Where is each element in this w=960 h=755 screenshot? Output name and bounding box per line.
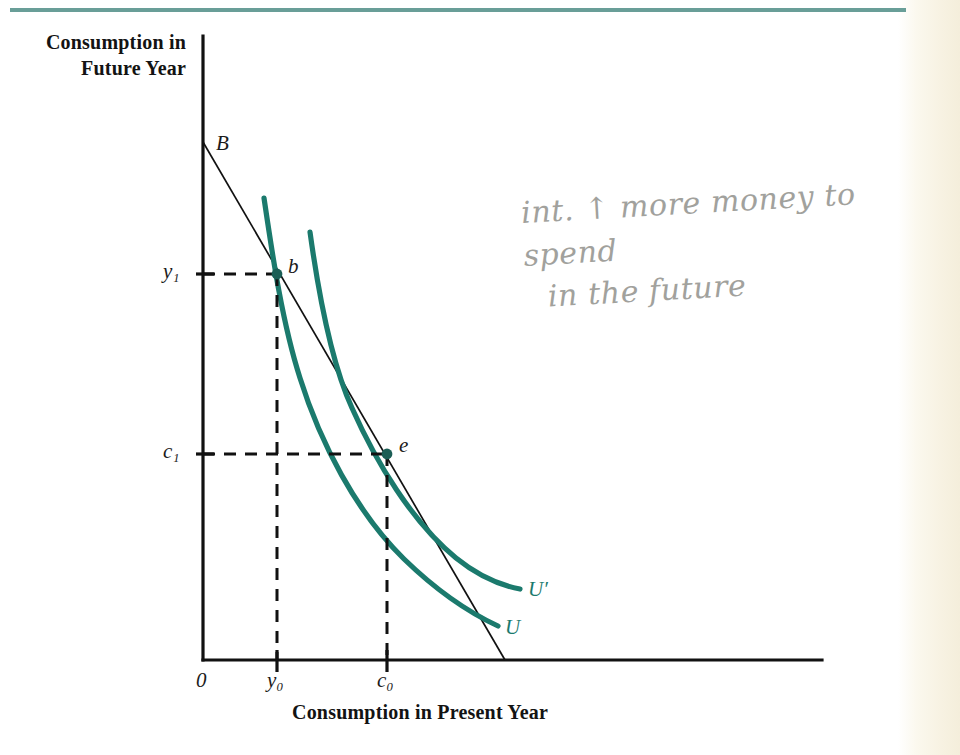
handwritten-annotation: int. ↑ more money to spend in the future: [520, 170, 927, 320]
tick-label-c1: c₁: [163, 439, 180, 464]
point-marker-b: [272, 269, 283, 280]
point-label-e: e: [399, 433, 408, 458]
x-axis-title: Consumption in Present Year: [210, 700, 630, 726]
origin-label: 0: [196, 668, 207, 693]
handwritten-annotation-line-1: int. ↑ more money to spend: [520, 176, 856, 272]
tick-label-y0: y₀: [267, 668, 284, 693]
point-label-b: b: [288, 254, 299, 279]
curve-label-u: U: [505, 615, 520, 640]
economics-indifference-curve-figure: [0, 0, 960, 755]
indifference-curve-u-prime: [310, 232, 520, 589]
budget-line: [203, 142, 505, 660]
figure-page: Consumption in Future Year Consumption i…: [0, 0, 960, 755]
tick-label-y1: y₁: [163, 259, 180, 284]
curve-label-u-prime: U′: [528, 577, 548, 602]
y-axis-title: Consumption in Future Year: [34, 30, 186, 81]
tick-label-c0: c₀: [377, 668, 394, 693]
point-marker-e: [382, 449, 393, 460]
point-label-B: B: [216, 131, 229, 156]
